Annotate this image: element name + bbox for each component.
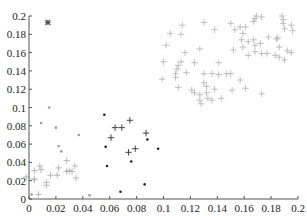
plus-marker — [276, 44, 282, 50]
dot-marker — [103, 114, 106, 117]
plus-marker — [178, 31, 184, 37]
y-tick-label: 0.04 — [7, 156, 27, 168]
series-cluster-gray-lowleft-dot — [30, 106, 90, 196]
plus-marker — [229, 87, 235, 93]
plus-marker — [258, 14, 264, 20]
plus-marker — [47, 172, 53, 178]
plus-marker — [250, 18, 256, 24]
plus-marker — [35, 191, 41, 197]
plus-marker — [215, 71, 221, 77]
x-tick-label: 0.1 — [157, 202, 171, 214]
scatter-chart: 00.020.040.060.080.10.120.140.160.180.2 … — [0, 0, 307, 216]
plus-marker — [279, 13, 285, 19]
plus-marker — [108, 134, 114, 140]
plus-marker — [240, 30, 246, 36]
plus-marker — [258, 91, 264, 97]
plus-marker — [252, 48, 258, 54]
plus-marker — [31, 177, 37, 183]
plus-marker — [54, 172, 60, 178]
y-tick-label: 0.08 — [7, 120, 27, 132]
plus-marker — [163, 42, 169, 48]
plus-marker — [72, 163, 78, 169]
plus-marker — [197, 97, 203, 103]
dot-marker — [30, 193, 33, 196]
y-axis-ticks: 00.020.040.060.080.10.120.140.160.180.2 — [7, 10, 32, 205]
star-marker — [45, 20, 50, 25]
plus-marker — [112, 124, 118, 130]
plus-marker — [211, 27, 217, 33]
plus-marker — [275, 35, 281, 41]
y-tick-label: 0.1 — [12, 102, 26, 114]
plus-marker — [175, 84, 181, 90]
plus-marker — [253, 13, 259, 19]
plus-marker — [215, 59, 221, 65]
plus-marker — [55, 165, 61, 171]
dot-marker — [88, 194, 91, 197]
plus-marker — [203, 90, 209, 96]
plus-marker — [37, 163, 43, 169]
plus-marker — [160, 59, 166, 65]
plus-marker — [201, 19, 207, 25]
plus-marker — [201, 70, 207, 76]
plus-marker — [230, 47, 236, 53]
plus-marker — [119, 124, 125, 130]
plot-area — [23, 13, 296, 198]
x-tick-label: 0 — [26, 202, 32, 214]
y-tick-label: 0.16 — [7, 47, 27, 59]
plus-marker — [265, 34, 271, 40]
x-tick-label: 0.12 — [181, 202, 200, 214]
plus-marker — [240, 44, 246, 50]
y-tick-label: 0.18 — [7, 28, 27, 40]
plus-marker — [242, 85, 248, 91]
plus-marker — [198, 101, 204, 107]
y-tick-label: 0.14 — [7, 65, 27, 77]
plus-marker — [228, 20, 234, 26]
series-outlier-star — [45, 20, 50, 25]
x-tick-label: 0.08 — [127, 202, 147, 214]
dot-marker — [48, 106, 51, 109]
x-tick-label: 0.14 — [208, 202, 228, 214]
plus-marker — [288, 22, 294, 28]
plus-marker — [218, 95, 224, 101]
plus-marker — [211, 86, 217, 92]
series-cluster-gray-lowleft-plus — [23, 157, 79, 197]
dot-marker — [57, 145, 60, 148]
dot-marker — [55, 126, 58, 129]
plus-marker — [197, 46, 203, 52]
plus-marker — [191, 59, 197, 65]
plus-marker — [127, 117, 133, 123]
dot-marker — [119, 190, 122, 193]
plus-marker — [183, 70, 189, 76]
plus-marker — [159, 76, 165, 82]
plus-marker — [132, 145, 138, 151]
plus-marker — [209, 70, 215, 76]
plus-marker — [280, 20, 286, 26]
plus-marker — [281, 26, 287, 32]
plus-marker — [238, 37, 244, 43]
dot-marker — [146, 138, 149, 141]
plus-marker — [31, 167, 37, 173]
plus-marker — [264, 50, 270, 56]
dot-marker — [40, 122, 43, 125]
y-tick-label: 0.02 — [7, 175, 26, 187]
plus-marker — [63, 157, 69, 163]
x-tick-label: 0.18 — [261, 202, 281, 214]
series-cluster-gray-plus — [159, 13, 296, 107]
dot-marker — [106, 165, 109, 168]
plus-marker — [73, 175, 79, 181]
x-tick-label: 0.02 — [46, 202, 65, 214]
dot-marker — [77, 134, 80, 137]
series-cluster-dark-plus — [108, 117, 149, 155]
dot-marker — [60, 150, 63, 153]
dot-marker — [157, 147, 160, 150]
y-tick-label: 0.12 — [7, 83, 26, 95]
plus-marker — [174, 66, 180, 72]
plus-marker — [252, 16, 258, 22]
plus-marker — [232, 27, 238, 33]
plus-marker — [237, 77, 243, 83]
series-cluster-dark-dot — [103, 114, 159, 193]
plus-marker — [242, 24, 248, 30]
plus-marker — [182, 49, 188, 55]
x-tick-label: 0.2 — [291, 202, 305, 214]
plus-marker — [228, 70, 234, 76]
